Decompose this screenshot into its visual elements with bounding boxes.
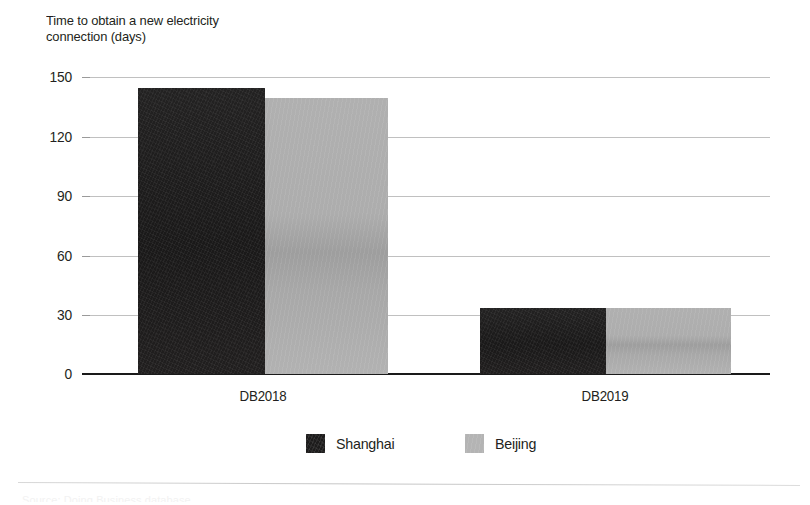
y-tick-label-120: 120	[17, 130, 72, 144]
legend-entry-beijing: Beijing	[465, 431, 538, 455]
tick-stub-90	[82, 196, 90, 197]
y-tick-label-150: 150	[17, 70, 72, 84]
bar-db2019-beijing	[606, 308, 731, 374]
footer-source-note: Source: Doing Business database.	[22, 494, 194, 502]
y-tick-label-0: 0	[17, 367, 72, 381]
legend-label-beijing: Beijing	[495, 435, 536, 452]
tick-stub-60	[82, 256, 90, 257]
y-tick-label-60: 60	[17, 249, 72, 263]
tick-stub-150	[82, 77, 90, 78]
bar-db2018-beijing	[265, 98, 388, 374]
y-tick-label-90: 90	[17, 189, 72, 203]
tick-stub-120	[82, 137, 90, 138]
legend-swatch-beijing-icon	[465, 434, 484, 453]
x-category-label-db2019: DB2019	[529, 388, 681, 404]
legend-label-shanghai: Shanghai	[336, 435, 394, 452]
legend-entry-shanghai: Shanghai	[306, 431, 397, 455]
bar-chart: Time to obtain a new electricity connect…	[0, 0, 810, 505]
bar-db2019-shanghai	[480, 308, 606, 374]
bar-db2018-shanghai	[138, 88, 265, 374]
chart-legend: Shanghai Beijing	[0, 431, 810, 457]
legend-swatch-shanghai-icon	[306, 434, 325, 453]
gridline-150	[90, 77, 770, 78]
footer-divider	[18, 482, 800, 486]
tick-stub-30	[82, 315, 90, 316]
plot-area: 150 120 90 60 30 0 DB2018 DB2019	[0, 0, 810, 400]
y-tick-label-30: 30	[17, 308, 72, 322]
x-category-label-db2018: DB2018	[187, 388, 339, 404]
